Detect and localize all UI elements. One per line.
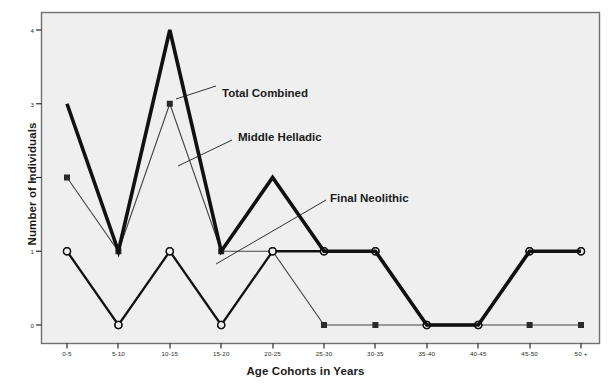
chart-canvas [0, 0, 611, 384]
data-point-marker-square [321, 322, 327, 328]
x-axis-ticks [67, 344, 581, 349]
x-tick-label: 5-10 [112, 350, 125, 357]
y-axis-title: Number of Individuals [26, 104, 38, 264]
y-tick-label: 1 [22, 248, 34, 255]
x-tick-label: 25-30 [316, 350, 333, 357]
data-point-marker-square [167, 101, 173, 107]
x-tick-label: 45-50 [521, 350, 538, 357]
x-tick-label: 30-35 [367, 350, 384, 357]
x-tick-label: 15-20 [213, 350, 230, 357]
x-tick-label: 35-40 [419, 350, 436, 357]
data-point-marker-square [527, 322, 533, 328]
data-point-marker-square [578, 322, 584, 328]
y-tick-label: 0 [22, 322, 34, 329]
x-axis-title: Age Cohorts in Years [0, 365, 611, 377]
x-tick-label: 50 + [575, 350, 588, 357]
series-annotation-label: Middle Helladic [238, 131, 322, 143]
x-tick-label: 20-25 [264, 350, 281, 357]
data-point-marker-square [64, 175, 70, 181]
y-tick-label: 3 [22, 100, 34, 107]
plot-area-background [42, 13, 600, 344]
x-tick-label: 40-45 [470, 350, 487, 357]
y-tick-label: 2 [22, 174, 34, 181]
chart-figure: Number of Individuals Age Cohorts in Yea… [0, 0, 611, 384]
series-annotation-label: Total Combined [222, 87, 308, 99]
x-tick-label: 0-5 [62, 350, 71, 357]
x-tick-label: 10-15 [162, 350, 179, 357]
data-point-marker-square [372, 322, 378, 328]
series-annotation-label: Final Neolithic [330, 192, 409, 204]
y-tick-label: 4 [22, 27, 34, 34]
